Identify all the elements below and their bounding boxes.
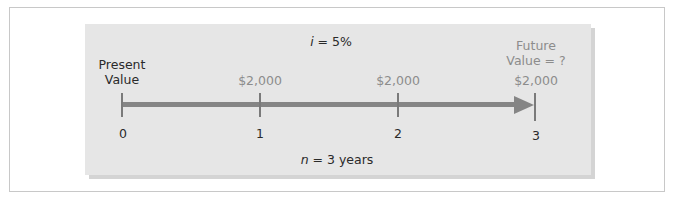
period-label-0: 0 [119, 128, 127, 141]
payment-label-2: $2,000 [376, 75, 420, 88]
periods-label: n = 3 years [301, 154, 374, 167]
timeline-axis [122, 102, 518, 107]
interest-value: 5% [332, 34, 352, 49]
future-value-line1: Future [506, 38, 565, 53]
periods-value: 3 years [327, 152, 373, 167]
period-label-2: 2 [394, 128, 402, 141]
tick-2 [397, 93, 399, 117]
future-value-line2: Value = ? [506, 53, 565, 68]
tick-3 [534, 93, 536, 121]
payment-label-3: $2,000 [514, 75, 558, 88]
periods-equals: = [309, 152, 327, 167]
present-value-line2: Value [99, 72, 146, 87]
tick-0 [121, 93, 123, 117]
arrowhead-icon [514, 96, 534, 114]
tick-1 [259, 93, 261, 117]
period-label-1: 1 [256, 128, 264, 141]
future-value-label: Future Value = ? [506, 38, 565, 68]
interest-equals: = [314, 34, 332, 49]
payment-label-1: $2,000 [238, 75, 282, 88]
present-value-label: Present Value [99, 57, 146, 87]
periods-symbol: n [301, 152, 309, 167]
period-label-3: 3 [532, 130, 540, 143]
interest-rate-label: i = 5% [310, 36, 352, 49]
present-value-line1: Present [99, 57, 146, 72]
